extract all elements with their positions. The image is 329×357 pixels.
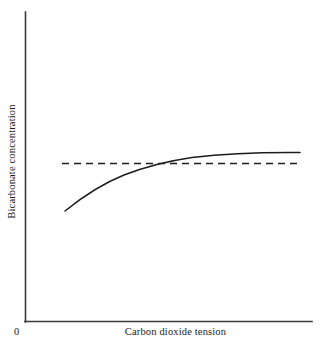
chart-plot-area [0,0,329,357]
chart-figure: Bicarbonate concentration Carbon dioxide… [0,0,329,357]
y-axis-label: Bicarbonate concentration [6,104,17,218]
x-axis-label: Carbon dioxide tension [0,326,329,337]
origin-tick-label: 0 [14,326,19,337]
y-axis-label-container: Bicarbonate concentration [0,0,22,322]
series-bicarbonate-response-curve [65,152,300,211]
